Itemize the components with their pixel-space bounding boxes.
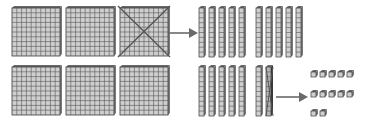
base-ten-blocks-diagram [0, 0, 370, 124]
ones-unit-cube [347, 90, 354, 97]
tens-rod-crossed [266, 65, 273, 116]
ones-unit-cube [329, 70, 336, 77]
tens-rod [209, 6, 216, 57]
ones-unit-cube [320, 90, 327, 97]
hundreds-flat [12, 65, 62, 115]
ones-unit-cube [311, 109, 318, 116]
arrow-right-icon [169, 28, 198, 38]
tens-rod [229, 6, 236, 57]
tens-rod [256, 6, 263, 57]
arrow-right-icon [276, 92, 308, 102]
tens-rod [256, 65, 263, 116]
ones-unit-cube [311, 90, 318, 97]
tens-rod [266, 6, 273, 57]
hundreds-flat [66, 6, 116, 56]
ones-unit-cube [338, 90, 345, 97]
ones-unit-cube [311, 70, 318, 77]
ones-unit-cube [347, 70, 354, 77]
tens-rod [219, 65, 226, 116]
tens-rod [239, 6, 246, 57]
bottom-row [12, 65, 354, 116]
hundreds-flat [66, 65, 116, 115]
top-row [12, 6, 303, 57]
ones-unit-cube [338, 70, 345, 77]
tens-rod [199, 6, 206, 57]
tens-rod [229, 65, 236, 116]
tens-rod [239, 65, 246, 116]
tens-rod [219, 6, 226, 57]
hundreds-flat-crossed [118, 6, 170, 57]
tens-rod [209, 65, 216, 116]
tens-rod [199, 65, 206, 116]
tens-rod [276, 6, 283, 57]
hundreds-flat [120, 65, 170, 115]
hundreds-flat [12, 6, 62, 56]
tens-rod [286, 6, 293, 57]
ones-unit-cube [320, 109, 327, 116]
ones-unit-cube [320, 70, 327, 77]
ones-unit-cube [329, 90, 336, 97]
tens-rod [296, 6, 303, 57]
